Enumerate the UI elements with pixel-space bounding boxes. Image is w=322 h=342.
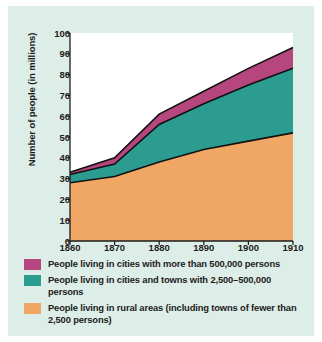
legend-item-rural-areas: People living in rural areas (including … <box>24 302 308 326</box>
chart-plot-area: Number of people (in millions) 010203040… <box>8 6 314 256</box>
legend-swatch-teal <box>24 275 41 286</box>
legend-label-towns-2500-500000: People living in cities and towns with 2… <box>48 274 308 298</box>
stacked-area-chart <box>8 6 314 256</box>
legend-item-towns-2500-500000: People living in cities and towns with 2… <box>24 274 308 298</box>
legend-swatch-orange <box>24 303 41 314</box>
legend-label-rural-areas: People living in rural areas (including … <box>48 302 308 326</box>
legend-label-cities-over-500000: People living in cities with more than 5… <box>48 258 280 270</box>
legend-item-cities-over-500000: People living in cities with more than 5… <box>24 258 308 270</box>
chart-legend: People living in cities with more than 5… <box>24 258 308 330</box>
legend-swatch-pink <box>24 259 41 270</box>
figure-panel: Number of people (in millions) 010203040… <box>8 6 314 336</box>
